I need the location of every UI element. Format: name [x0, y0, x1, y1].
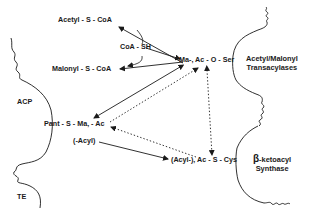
node-malonyl-coa: Malonyl - S - CoA: [52, 65, 111, 72]
edge-acyl-to-cys: [99, 142, 168, 159]
domain-acp: ACP: [17, 98, 32, 105]
edge-pant-ser-dotted: [110, 68, 198, 122]
ks-line2: Synthase: [253, 165, 291, 174]
domain-transacylases: Acetyl/Malonyl Transacylases: [246, 55, 298, 72]
node-pant-center: Pant - S - Ma, - Ac: [44, 120, 104, 127]
node-acetyl-coa: Acetyl - S - CoA: [58, 16, 112, 23]
diagram-canvas: [0, 0, 311, 212]
edge-ser-cys-dotted: [207, 70, 212, 155]
node-acyl: (-Acyl): [73, 137, 95, 144]
node-cys-center: (Acyl-), Ac - S - Cys: [171, 156, 237, 163]
node-coa-sh: CoA - SH: [120, 43, 151, 50]
node-ser-center: Ma-, Ac - O - Ser: [179, 56, 234, 63]
domain-te: TE: [17, 193, 26, 200]
edge-coa-sh-curve-bottom: [128, 56, 142, 66]
edge-coa-to-ser: [146, 48, 180, 59]
domain-ketoacyl-synthase: β-ketoacyl Synthase: [253, 153, 291, 173]
edge-ser-pant-solid: [94, 67, 180, 118]
edge-cys-pant-dotted: [111, 127, 196, 157]
transacylases-line2: Transacylases: [246, 64, 298, 73]
ks-line1: -ketoacyl: [259, 155, 291, 164]
